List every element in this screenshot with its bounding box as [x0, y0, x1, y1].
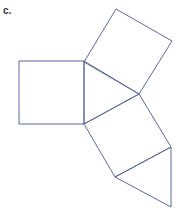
- center-triangle: [84, 61, 139, 124]
- lower-square: [84, 94, 171, 177]
- left-square: [19, 61, 84, 124]
- polyhedron-net-diagram: [0, 0, 181, 209]
- bottom-triangle: [115, 147, 171, 207]
- top-square: [84, 9, 172, 94]
